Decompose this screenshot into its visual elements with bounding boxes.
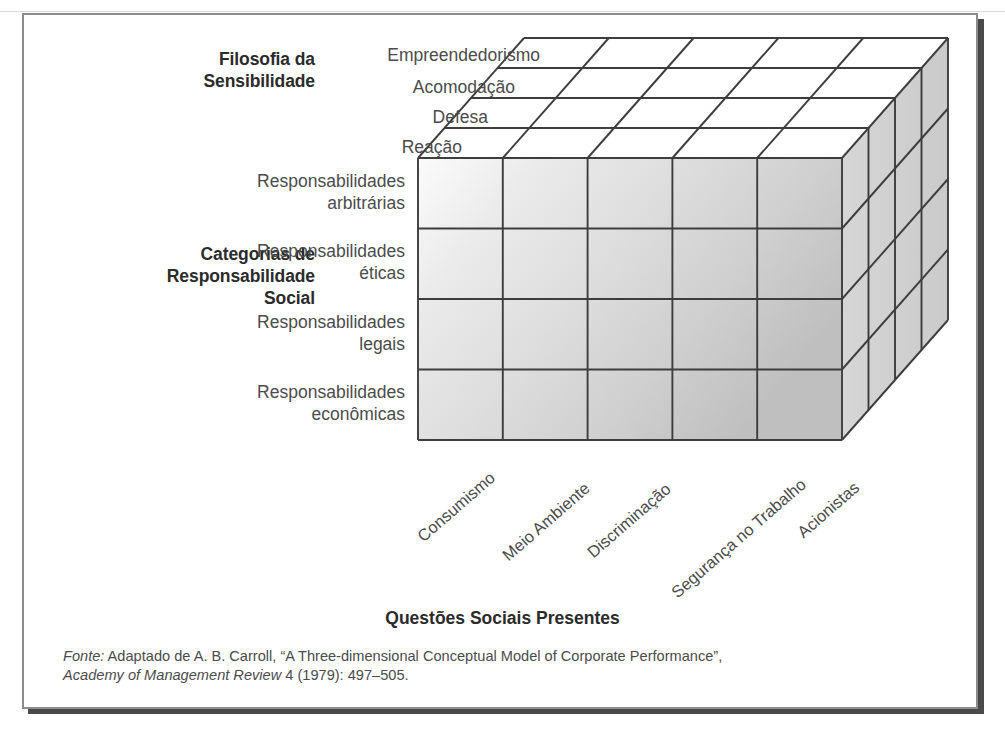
- row-label-eticas: Responsabilidades éticas: [195, 240, 405, 284]
- row-label-eticas-line-2: éticas: [195, 262, 405, 284]
- row-label-arbitrarias-line-1: Responsabilidades: [195, 170, 405, 192]
- source-citation-detail: 4 (1979): 497–505.: [281, 667, 408, 683]
- axis-title-categories-line-3: Social: [40, 287, 315, 309]
- source-line-1-text: Adaptado de A. B. Carroll, “A Three-dime…: [104, 648, 722, 664]
- row-label-eticas-line-1: Responsabilidades: [195, 240, 405, 262]
- source-label: Fonte:: [63, 648, 104, 664]
- row-label-arbitrarias: Responsabilidades arbitrárias: [195, 170, 405, 214]
- row-label-arbitrarias-line-2: arbitrárias: [195, 192, 405, 214]
- depth-label-reacao: Reação: [200, 137, 462, 158]
- row-label-economicas-line-1: Responsabilidades: [195, 381, 405, 403]
- row-label-legais: Responsabilidades legais: [195, 311, 405, 355]
- row-label-legais-line-2: legais: [195, 333, 405, 355]
- depth-label-acomodacao: Acomodação: [200, 77, 515, 98]
- row-label-legais-line-1: Responsabilidades: [195, 311, 405, 333]
- depth-label-defesa: Defesa: [200, 107, 488, 128]
- row-label-economicas-line-2: econômicas: [195, 403, 405, 425]
- three-dimensional-cube-diagram: [0, 0, 1005, 751]
- source-journal-title: Academy of Management Review: [63, 667, 281, 683]
- depth-label-empreendedorismo: Empreendedorismo: [200, 45, 540, 66]
- source-note-line-1: Fonte: Adaptado de A. B. Carroll, “A Thr…: [63, 647, 943, 666]
- figure-canvas: Filosofia da Sensibilidade Categorias de…: [0, 0, 1005, 751]
- row-label-economicas: Responsabilidades econômicas: [195, 381, 405, 425]
- axis-title-social-issues: Questões Sociais Presentes: [0, 608, 1005, 629]
- source-note-line-2: Academy of Management Review 4 (1979): 4…: [63, 666, 943, 685]
